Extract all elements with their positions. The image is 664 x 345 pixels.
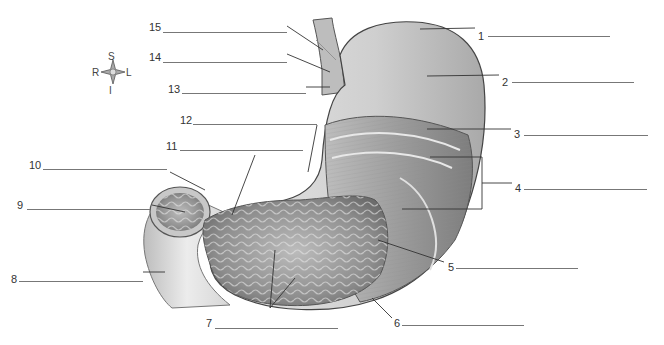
answer-blank-8[interactable] xyxy=(19,281,143,282)
answer-blank-12[interactable] xyxy=(193,124,317,125)
stomach-diagram: S I R L 123456789101112131415 xyxy=(0,0,664,345)
answer-blank-9[interactable] xyxy=(27,209,150,210)
compass-inferior: I xyxy=(109,86,112,96)
compass-right: R xyxy=(92,68,99,78)
label-number-3: 3 xyxy=(514,129,520,140)
label-number-9: 9 xyxy=(17,200,23,211)
answer-blank-6[interactable] xyxy=(402,325,524,326)
label-number-2: 2 xyxy=(502,77,508,88)
label-number-10: 10 xyxy=(29,160,41,171)
answer-blank-2[interactable] xyxy=(512,82,634,83)
answer-blank-4[interactable] xyxy=(524,189,647,190)
label-number-6: 6 xyxy=(394,318,400,329)
label-number-14: 14 xyxy=(149,52,161,63)
label-number-13: 13 xyxy=(168,84,180,95)
answer-blank-15[interactable] xyxy=(163,32,287,33)
compass-rose xyxy=(101,60,125,84)
label-number-8: 8 xyxy=(11,274,17,285)
pylorus xyxy=(150,187,210,237)
answer-blank-13[interactable] xyxy=(182,93,306,94)
stomach-illustration xyxy=(0,0,664,345)
answer-blank-3[interactable] xyxy=(524,135,648,136)
label-number-5: 5 xyxy=(448,262,454,273)
answer-blank-14[interactable] xyxy=(163,62,287,63)
answer-blank-10[interactable] xyxy=(43,169,167,170)
label-number-4: 4 xyxy=(515,183,521,194)
label-number-12: 12 xyxy=(180,115,192,126)
label-number-1: 1 xyxy=(478,31,484,42)
label-number-11: 11 xyxy=(166,141,177,152)
gastric-mucosa-rugae xyxy=(203,196,388,306)
label-number-7: 7 xyxy=(206,318,212,329)
compass-superior: S xyxy=(108,52,115,62)
answer-blank-5[interactable] xyxy=(456,268,578,269)
answer-blank-11[interactable] xyxy=(180,150,303,151)
answer-blank-7[interactable] xyxy=(215,328,338,329)
compass-left: L xyxy=(126,68,132,78)
answer-blank-1[interactable] xyxy=(488,36,610,37)
label-number-15: 15 xyxy=(149,22,161,33)
